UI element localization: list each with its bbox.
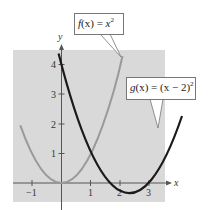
x-tick-label: 1 [88,187,93,198]
f-exp: 2 [110,16,114,24]
y-axis-arrow-icon [59,44,64,50]
x-axis-label: x [173,177,179,188]
g-arg: (x) = (x − 2) [136,81,191,93]
g-exp: 2 [190,80,194,88]
f-arg: (x) = [81,17,106,29]
y-tick-label: 1 [51,148,56,159]
y-axis-label: y [57,31,63,42]
f-legend-label: f(x) = x2 [74,13,124,35]
y-tick-label: 3 [51,89,56,100]
x-tick-label: 3 [146,187,151,198]
x-axis-arrow-icon [166,181,172,186]
y-tick-label: 4 [51,59,56,70]
x-tick-label: −1 [26,187,37,198]
g-legend-label: g(x) = (x − 2)2 [126,77,196,100]
y-tick-label: 2 [51,119,56,130]
plot-area [13,50,165,202]
